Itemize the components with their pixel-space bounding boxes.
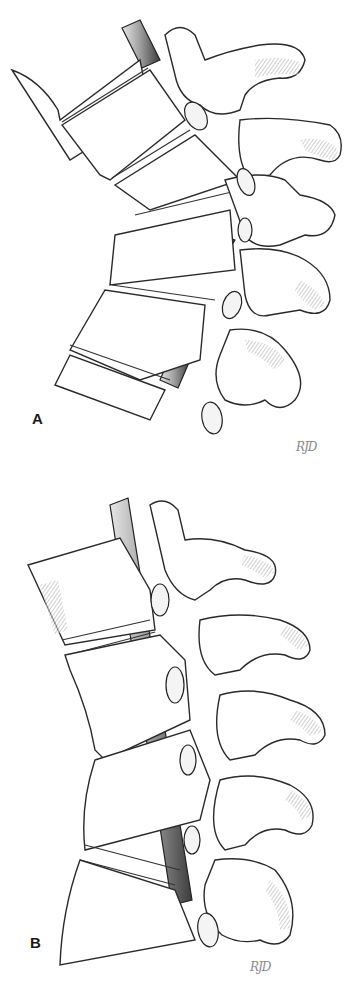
panel-label-b: B [30, 934, 41, 951]
spine-illustration-b [0, 460, 357, 1005]
spine-illustration-a [0, 0, 357, 460]
panel-label-a: A [32, 410, 43, 427]
figure-panel-b: B RJD [0, 460, 357, 1005]
artist-signature-a: RJD [296, 440, 316, 454]
artist-signature-b: RJD [250, 960, 270, 974]
figure-panel-a: A RJD [0, 0, 357, 460]
